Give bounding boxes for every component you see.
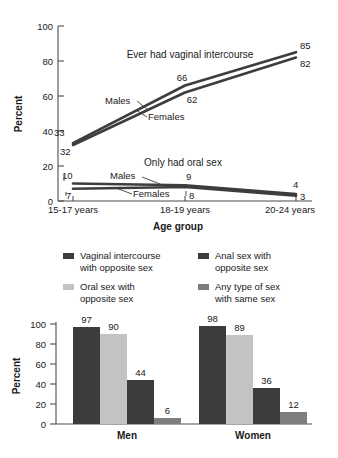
datalabel-vaginal-females-3: 82 [300,58,311,69]
datalabel-men-anal: 44 [135,367,146,378]
legend-label-vaginal-intercourse-line2: with opposite sex [79,262,153,273]
datalabel-women-samesex: 12 [288,399,299,410]
bar-men-anal [127,380,154,424]
datalabel-oral-males-2: 9 [186,171,191,182]
legend-label-anal-sex-line1: Anal sex with [215,250,271,261]
datalabel-vaginal-males-3: 85 [300,40,311,51]
y-tick-label-b-20: 20 [35,399,46,410]
bar-men-samesex [154,418,181,424]
bar-women-samesex [280,412,307,424]
datalabel-men-oral: 90 [108,321,119,332]
legend-label-any-type-same-sex-line1: Any type of sex [215,281,280,292]
legend-swatch-anal-sex [198,253,209,259]
bar-men-vaginal [73,327,100,424]
y-tick-label-60: 60 [42,91,53,102]
leader-males-oral [142,177,160,184]
x-tick-label-15-17: 15-17 years [48,204,98,215]
x-tick-label-20-24: 20-24 years [265,204,315,215]
x-tick-label-18-19: 18-19 years [160,204,210,215]
legend-swatch-vaginal-intercourse [63,253,74,259]
y-tick-label-b-60: 60 [35,359,46,370]
legend-label-vaginal-intercourse-line1: Vaginal intercourse [80,250,161,261]
datalabel-women-oral: 89 [234,322,245,333]
datalabel-oral-females-1: 7 [66,190,71,201]
y-axis-title-top: Percent [13,95,24,132]
legend-swatch-any-type-same-sex [198,284,209,290]
y-tick-label-b-80: 80 [35,339,46,350]
datalabel-oral-females-2: 8 [189,190,194,201]
y-tick-label-b-100: 100 [30,319,46,330]
x-category-label-women: Women [235,430,271,441]
y-tick-label-b-40: 40 [35,379,46,390]
datalabel-men-samesex: 6 [165,405,170,416]
figure-container: 100 80 60 40 20 0 Percent 15-17 years 18… [0,0,338,458]
bar-men-oral [100,334,127,424]
callout-males-oral: Males [110,170,136,181]
callout-males-vaginal: Males [105,95,131,106]
callout-females-oral: Females [133,188,170,199]
datalabel-women-vaginal: 98 [207,313,218,324]
bar-women-oral [226,335,253,424]
x-axis-title-top: Age group [153,221,203,232]
datalabel-men-vaginal: 97 [81,314,92,325]
bar-chart-men-women: Vaginal intercourse with opposite sex An… [0,236,338,458]
datalabel-women-anal: 36 [261,375,272,386]
line-chart-age-group: 100 80 60 40 20 0 Percent 15-17 years 18… [0,0,338,236]
x-category-label-men: Men [117,430,137,441]
y-axis-title-bottom: Percent [11,357,22,394]
bar-women-vaginal [199,326,226,424]
datalabel-vaginal-females-2: 62 [187,94,198,105]
y-tick-label-80: 80 [42,56,53,67]
legend-label-oral-sex-line1: Oral sex with [80,281,135,292]
legend-label-anal-sex-line2: opposite sex [215,262,269,273]
bar-women-anal [253,388,280,424]
callout-females-vaginal: Females [148,111,185,122]
legend-label-any-type-same-sex-line2: with same sex [214,293,275,304]
legend-label-oral-sex-line2: opposite sex [80,293,134,304]
annotation-only-had-oral-sex: Only had oral sex [144,157,222,168]
legend-swatch-oral-sex [63,284,74,290]
datalabel-oral-females-3: 3 [300,191,305,202]
y-tick-label-b-0: 0 [41,419,46,430]
y-tick-label-20: 20 [42,161,53,172]
datalabel-vaginal-males-1: 33 [54,127,65,138]
y-tick-label-100: 100 [37,21,53,32]
datalabel-oral-males-3: 4 [293,179,298,190]
annotation-ever-had-vaginal-intercourse: Ever had vaginal intercourse [127,49,254,60]
datalabel-vaginal-females-1: 32 [60,146,71,157]
datalabel-vaginal-males-2: 66 [177,72,188,83]
y-tick-label-40: 40 [42,126,53,137]
